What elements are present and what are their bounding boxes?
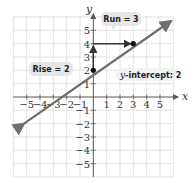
y-tick-label: −2 [75, 119, 90, 130]
second-point [131, 41, 136, 46]
x-tick-label: 5 [157, 99, 163, 110]
rise-callout: Rise = 2 [29, 62, 73, 76]
x-tick-label: 2 [117, 99, 123, 110]
x-tick-label: 4 [144, 99, 150, 110]
x-tick-label: 1 [104, 99, 110, 110]
y-tick-label: −1 [75, 105, 90, 116]
y-tick-label: 4 [84, 39, 90, 50]
y-axis-label: y [85, 3, 93, 16]
x-tick-labels: −5 −4 −3 −2 −1 1 2 3 4 5 [19, 99, 163, 110]
run-label: Run = 3 [103, 15, 138, 24]
x-tick-label: 3 [130, 99, 136, 110]
y-tick-label: 2 [84, 65, 90, 76]
x-axis-label: x [182, 90, 189, 103]
graph-canvas: −5 −4 −3 −2 −1 1 2 3 4 5 5 4 3 2 1 −1 −2… [0, 0, 194, 183]
y-tick-label: 5 [84, 25, 90, 36]
intercept-callout: y-intercept: 2 [116, 68, 181, 81]
y-tick-label: −3 [75, 132, 90, 143]
intercept-label: y-intercept: 2 [119, 70, 181, 80]
rise-label: Rise = 2 [33, 65, 70, 74]
y-tick-label: −4 [75, 145, 90, 156]
y-tick-label: −5 [75, 159, 90, 170]
y-intercept-point [91, 68, 96, 73]
y-tick-label: 3 [84, 52, 90, 63]
